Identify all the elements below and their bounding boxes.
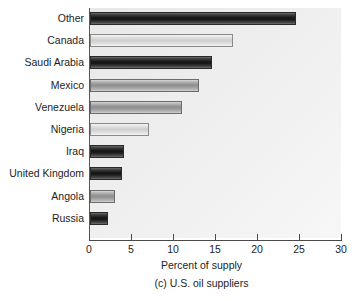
x-tick-label: 15 bbox=[200, 243, 230, 256]
bar-venezuela bbox=[90, 101, 182, 114]
bar-row: United Kingdom bbox=[0, 163, 359, 185]
category-label: Other bbox=[58, 11, 84, 25]
x-tick-mark bbox=[299, 234, 300, 241]
category-label: Iraq bbox=[66, 144, 84, 158]
x-tick-mark bbox=[341, 234, 342, 241]
category-label: Mexico bbox=[51, 78, 84, 92]
x-tick-label: 10 bbox=[158, 243, 188, 256]
bar-iraq bbox=[90, 145, 124, 158]
bar-row: Mexico bbox=[0, 75, 359, 97]
x-tick-mark bbox=[257, 234, 258, 241]
bar-mexico bbox=[90, 79, 199, 92]
category-label: United Kingdom bbox=[9, 166, 84, 180]
category-label: Nigeria bbox=[51, 122, 84, 136]
bar-row: Saudi Arabia bbox=[0, 52, 359, 74]
x-tick-mark bbox=[89, 234, 90, 241]
figure-caption: (c) U.S. oil suppliers bbox=[0, 277, 359, 290]
category-label: Angola bbox=[51, 189, 84, 203]
bar-canada bbox=[90, 34, 233, 47]
x-tick-label: 0 bbox=[74, 243, 104, 256]
x-tick-label: 20 bbox=[242, 243, 272, 256]
figure-us-oil-suppliers: OtherCanadaSaudi ArabiaMexicoVenezuelaNi… bbox=[0, 0, 359, 301]
x-tick-mark bbox=[173, 234, 174, 241]
x-axis-title: Percent of supply bbox=[0, 259, 359, 272]
x-tick-mark bbox=[215, 234, 216, 241]
bar-angola bbox=[90, 190, 115, 203]
category-label: Saudi Arabia bbox=[24, 55, 84, 69]
bar-nigeria bbox=[90, 123, 149, 136]
x-tick-label: 5 bbox=[116, 243, 146, 256]
bar-row: Russia bbox=[0, 208, 359, 230]
bar-row: Iraq bbox=[0, 141, 359, 163]
category-label: Russia bbox=[52, 211, 84, 225]
x-tick-label: 30 bbox=[326, 243, 356, 256]
bar-russia bbox=[90, 212, 108, 225]
category-label: Canada bbox=[47, 33, 84, 47]
bar-united-kingdom bbox=[90, 167, 122, 180]
bar-row: Other bbox=[0, 8, 359, 30]
x-tick-label: 25 bbox=[284, 243, 314, 256]
bar-row: Angola bbox=[0, 186, 359, 208]
bar-row: Venezuela bbox=[0, 97, 359, 119]
bar-row: Canada bbox=[0, 30, 359, 52]
bar-row: Nigeria bbox=[0, 119, 359, 141]
x-tick-mark bbox=[131, 234, 132, 241]
bar-saudi-arabia bbox=[90, 56, 212, 69]
category-label: Venezuela bbox=[35, 100, 84, 114]
bar-other bbox=[90, 12, 296, 25]
